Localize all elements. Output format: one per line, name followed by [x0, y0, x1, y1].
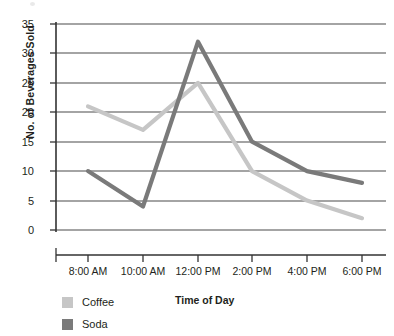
legend-label-soda: Soda: [82, 319, 108, 330]
x-tick-label-4: 4:00 PM: [278, 265, 336, 277]
x-tick-label-2: 12:00 PM: [166, 265, 230, 277]
x-axis: [56, 248, 386, 262]
line-chart: No. of Beverages Sold 35 30 25 20 15 10 …: [0, 0, 394, 336]
legend-swatch-soda: [62, 319, 73, 330]
legend-label-coffee: Coffee: [82, 297, 114, 308]
x-axis-title: Time of Day: [175, 294, 234, 306]
gridlines: [56, 24, 386, 230]
x-tick-label-3: 2:00 PM: [223, 265, 281, 277]
legend-swatch-coffee: [62, 297, 73, 308]
plot-area: [0, 0, 394, 336]
legend-item-coffee[interactable]: Coffee: [62, 297, 114, 308]
legend-item-soda[interactable]: Soda: [62, 319, 108, 330]
x-tick-label-0: 8:00 AM: [58, 265, 118, 277]
x-tick-label-5: 6:00 PM: [333, 265, 391, 277]
y-axis: [50, 22, 56, 232]
